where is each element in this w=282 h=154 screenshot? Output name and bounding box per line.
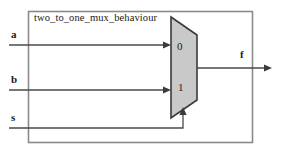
- wire-b-arrowhead: [163, 86, 171, 93]
- input-label-a: a: [11, 29, 17, 40]
- input-label-b: b: [11, 74, 17, 85]
- entity-name-label: two_to_one_mux_behaviour: [34, 13, 157, 24]
- schematic-canvas: two_to_one_mux_behaviour a b s f 0 1: [0, 0, 282, 154]
- mux-input-label-1: 1: [178, 82, 184, 93]
- wire-a-arrowhead: [163, 41, 171, 48]
- mux-input-label-0: 0: [177, 41, 183, 52]
- output-label-f: f: [240, 49, 244, 60]
- mux-body: [171, 17, 197, 118]
- wire-s: [9, 115, 183, 128]
- entity-boundary-box: [29, 12, 253, 143]
- input-label-s: s: [11, 112, 15, 123]
- wire-f-arrowhead: [264, 64, 272, 71]
